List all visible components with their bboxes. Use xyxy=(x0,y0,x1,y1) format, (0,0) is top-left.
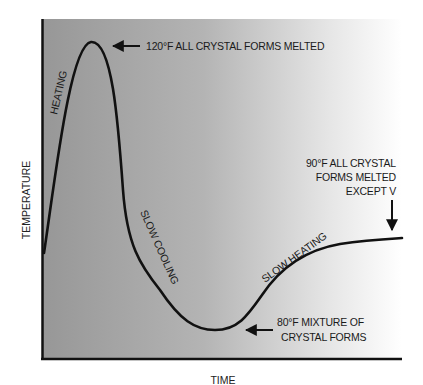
trough-annotation-line1: 80°F MIXTURE OF xyxy=(277,316,364,328)
x-axis-label: TIME xyxy=(210,374,235,385)
plateau-annotation-line3: EXCEPT V xyxy=(346,185,396,197)
plateau-annotation-line1: 90°F ALL CRYSTAL xyxy=(306,157,396,169)
peak-annotation: 120°F ALL CRYSTAL FORMS MELTED xyxy=(146,40,325,52)
plateau-annotation-line2: FORMS MELTED xyxy=(316,171,397,183)
trough-annotation-line2: CRYSTAL FORMS xyxy=(281,331,366,343)
temperature-time-chart: HEATING SLOW COOLING SLOW HEATING 120°F … xyxy=(0,0,423,385)
y-axis-label: TEMPERATURE xyxy=(20,161,32,240)
